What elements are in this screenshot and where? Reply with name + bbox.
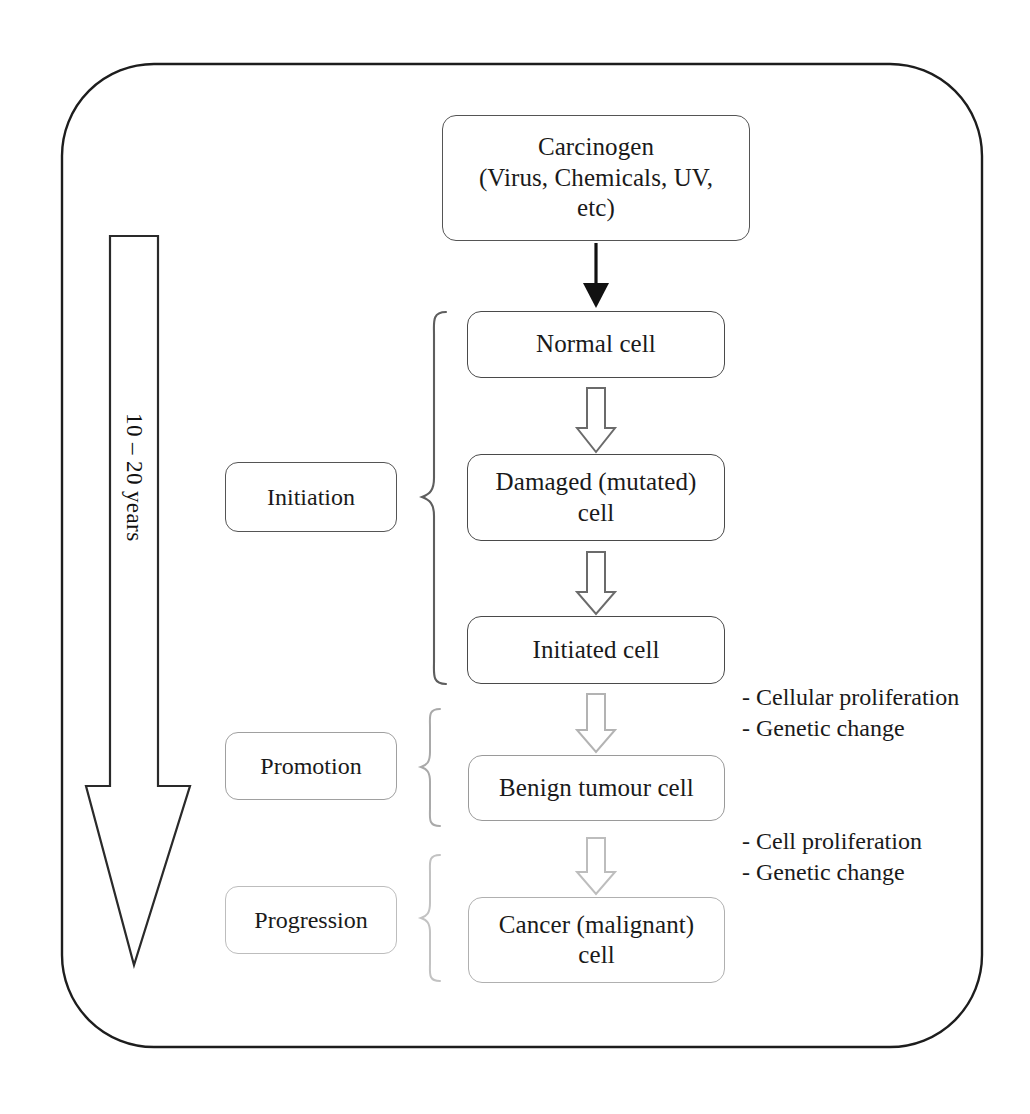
annotation-progression-line2: - Genetic change [742, 857, 922, 888]
node-carcinogen-line2: (Virus, Chemicals, UV, [479, 164, 713, 191]
node-carcinogen-line1: Carcinogen [538, 133, 654, 160]
node-cancer-cell-text: Cancer (malignant) cell [491, 910, 702, 971]
node-cancer-cell-line2: cell [578, 941, 614, 968]
stage-label-promotion-text: Promotion [260, 753, 361, 780]
connector-initiated-benign [577, 694, 615, 752]
stage-label-initiation-text: Initiation [267, 484, 355, 511]
node-benign-tumour-cell-text: Benign tumour cell [491, 773, 702, 804]
node-initiated-cell-text: Initiated cell [524, 635, 667, 666]
node-damaged-cell-text: Damaged (mutated) cell [488, 467, 705, 528]
stage-label-progression-text: Progression [254, 907, 367, 934]
connector-carcinogen-normal-head [583, 283, 609, 308]
stage-label-promotion[interactable]: Promotion [225, 732, 397, 800]
stage-label-initiation[interactable]: Initiation [225, 462, 397, 532]
connector-normal-damaged [577, 388, 615, 452]
timeline-arrow [86, 236, 190, 965]
node-initiated-cell[interactable]: Initiated cell [467, 616, 725, 684]
connector-damaged-initiated [577, 552, 615, 614]
diagram-canvas: 10 – 20 years Initiation Promotion Progr… [0, 0, 1030, 1114]
node-benign-tumour-cell[interactable]: Benign tumour cell [468, 755, 725, 821]
node-damaged-cell-line2: cell [578, 499, 614, 526]
node-normal-cell-text: Normal cell [528, 329, 664, 360]
connector-benign-cancer [577, 838, 615, 894]
node-normal-cell[interactable]: Normal cell [467, 311, 725, 378]
timeline-years-label: 10 – 20 years [121, 413, 147, 473]
annotation-promotion-notes: - Cellular proliferation - Genetic chang… [742, 682, 959, 743]
stage-label-progression[interactable]: Progression [225, 886, 397, 954]
annotation-promotion-line1: - Cellular proliferation [742, 682, 959, 713]
brace-progression [421, 855, 440, 981]
annotation-progression-line1: - Cell proliferation [742, 826, 922, 857]
node-carcinogen-line3: etc) [577, 194, 615, 221]
brace-promotion [421, 709, 440, 826]
node-carcinogen-text: Carcinogen (Virus, Chemicals, UV, etc) [471, 132, 721, 224]
node-damaged-cell-line1: Damaged (mutated) [496, 468, 697, 495]
annotation-promotion-line2: - Genetic change [742, 713, 959, 744]
node-carcinogen[interactable]: Carcinogen (Virus, Chemicals, UV, etc) [442, 115, 750, 241]
brace-initiation [422, 312, 446, 684]
node-cancer-cell-line1: Cancer (malignant) [499, 911, 694, 938]
annotation-progression-notes: - Cell proliferation - Genetic change [742, 826, 922, 887]
node-cancer-cell[interactable]: Cancer (malignant) cell [468, 897, 725, 983]
node-damaged-cell[interactable]: Damaged (mutated) cell [467, 454, 725, 541]
